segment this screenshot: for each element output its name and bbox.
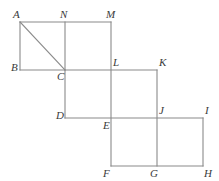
vertex-label-i: I — [205, 105, 209, 116]
vertex-label-f: F — [103, 168, 110, 179]
diagonals-group — [20, 22, 65, 70]
vertex-label-j: J — [159, 105, 164, 116]
vertex-label-b: B — [11, 62, 18, 73]
vertex-label-k: K — [159, 57, 166, 68]
vertex-label-m: M — [106, 9, 115, 20]
vertex-label-l: L — [113, 57, 119, 68]
edges-group — [20, 22, 203, 166]
vertex-label-c: C — [57, 71, 64, 82]
vertex-label-g: G — [150, 168, 158, 179]
vertex-label-n: N — [60, 9, 67, 20]
geometry-figure: ANMBCLKDEJIFGH — [0, 0, 219, 181]
figure-canvas — [0, 0, 219, 181]
vertex-label-a: A — [13, 9, 20, 20]
vertex-label-e: E — [103, 120, 110, 131]
vertex-label-h: H — [204, 168, 212, 179]
diagonal-A-C — [20, 22, 65, 70]
vertex-label-d: D — [56, 110, 64, 121]
